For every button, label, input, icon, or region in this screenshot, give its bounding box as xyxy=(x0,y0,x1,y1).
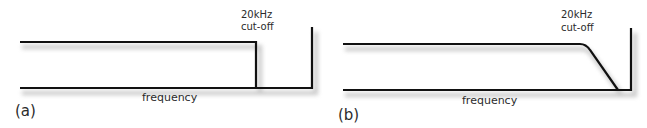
panel-b-shadow xyxy=(345,33,635,95)
panel-a-cutoff-freq: 20kHz xyxy=(241,9,272,20)
panel-a-x-axis-label: frequency xyxy=(142,91,198,104)
panel-b-cutoff-label: cut-off xyxy=(561,22,595,33)
panel-a: 20kHz cut-off frequency (a) xyxy=(15,9,316,120)
panel-b-label: (b) xyxy=(338,106,359,124)
panel-a-axes xyxy=(20,27,312,88)
panel-b-axes xyxy=(343,28,631,90)
filter-response-diagram: 20kHz cut-off frequency (a) 20kHz cut-of… xyxy=(0,0,647,128)
panel-a-cutoff-label: cut-off xyxy=(241,21,275,32)
panel-b: 20kHz cut-off frequency (b) xyxy=(338,9,635,124)
panel-b-x-axis-label: frequency xyxy=(462,94,518,107)
panel-b-cutoff-freq: 20kHz xyxy=(561,9,592,20)
panel-a-label: (a) xyxy=(15,102,36,120)
